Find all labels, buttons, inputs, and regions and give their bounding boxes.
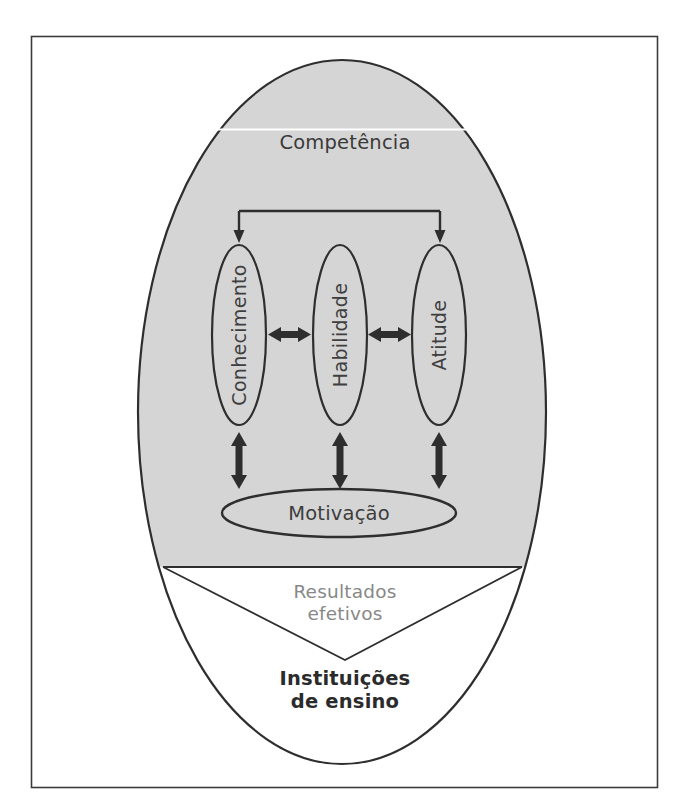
competencia-diagram xyxy=(0,0,690,811)
diagram-canvas: Competência Conhecimento Habilidade Atit… xyxy=(0,0,690,811)
